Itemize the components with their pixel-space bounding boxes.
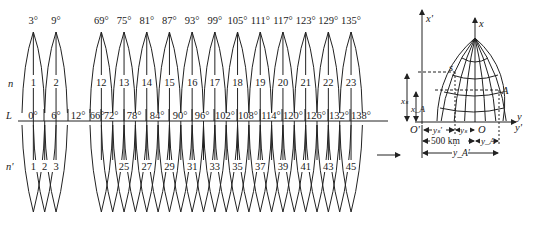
central-meridian-label: 69°: [94, 15, 109, 26]
central-meridian-label: 9°: [51, 15, 60, 26]
six-degree-zone: 1693°: [181, 15, 204, 121]
three-degree-zone-number: 1: [31, 161, 36, 172]
zone-number: 18: [232, 77, 243, 88]
longitude-label: 12°: [71, 110, 86, 121]
central-meridian-label: 87°: [162, 15, 177, 26]
zone-number: 21: [300, 77, 311, 88]
row-label-n: n: [8, 78, 13, 89]
zone-number: 22: [323, 77, 334, 88]
point-s-label: s: [449, 62, 453, 73]
longitude-label: 138°: [351, 110, 371, 121]
zone-number: 19: [255, 77, 266, 88]
longitude-label: 126°: [306, 110, 326, 121]
central-meridian-label: 81°: [139, 15, 154, 26]
central-meridian-label: 93°: [185, 15, 200, 26]
false-easting-label: 500 km: [431, 136, 460, 146]
zone-number: 13: [119, 77, 130, 88]
three-degree-zone-number: 39: [278, 161, 289, 172]
longitude-label: 66°: [90, 110, 105, 121]
y-s-prime-label: yₛ': [432, 125, 443, 135]
point-A-label: A: [501, 85, 509, 96]
three-degree-zone-number: 37: [255, 161, 266, 172]
row-label-n-prime: n': [6, 161, 14, 172]
x-s-label: xₛ: [400, 96, 409, 106]
y-A-label: y_A: [480, 136, 495, 146]
three-degree-zone-number: 35: [232, 161, 243, 172]
zone-number: 14: [142, 77, 153, 88]
three-degree-zones: 1232527293133353739414345: [22, 121, 362, 212]
longitude-label: 6°: [51, 110, 60, 121]
longitude-label: 114°: [261, 110, 281, 121]
longitude-label: 132°: [329, 110, 349, 121]
zone-number: 17: [210, 77, 221, 88]
central-meridian-label: 123°: [296, 15, 316, 26]
origin-label: O: [478, 124, 486, 135]
longitude-label: 0°: [28, 110, 37, 121]
longitude-label: 90°: [173, 110, 188, 121]
longitude-labels: 0°6°12°66°72°78°84°90°96°102°108°114°120…: [28, 109, 371, 121]
central-meridian-label: 3°: [29, 15, 38, 26]
axis-x-prime-label: x': [425, 13, 434, 24]
longitude-label: 78°: [127, 110, 142, 121]
central-meridian-label: 99°: [207, 15, 222, 26]
three-degree-zone-number: 33: [210, 161, 221, 172]
three-degree-zone-number: 27: [142, 161, 153, 172]
six-degree-zone: 29°: [45, 15, 68, 121]
six-degree-zone: 21123°: [294, 15, 317, 121]
three-degree-zone-number: 2: [42, 161, 47, 172]
longitude-label: 108°: [238, 110, 258, 121]
six-degree-zone: 1587°: [158, 15, 181, 121]
longitude-label: 120°: [283, 110, 303, 121]
six-degree-zone: 22129°: [317, 15, 340, 121]
axis-y-label: y: [516, 111, 522, 122]
projection-zone-diagram: n L n' 13°29°1269°1375°1481°1587°1693°17…: [0, 0, 539, 230]
three-degree-zone-number: 43: [323, 161, 334, 172]
zone-number: 1: [31, 77, 36, 88]
longitude-label: 96°: [195, 110, 210, 121]
three-degree-zone-number: 45: [346, 161, 357, 172]
origin-prime-label: O': [410, 124, 421, 135]
zone-number: 2: [53, 77, 58, 88]
axis-y-prime-label: y': [514, 122, 523, 133]
three-degree-zone-number: 31: [187, 161, 198, 172]
zone-number: 20: [278, 77, 289, 88]
three-degree-zone-number: 29: [164, 161, 175, 172]
row-label-L: L: [5, 110, 12, 121]
central-meridian-label: 135°: [341, 15, 361, 26]
central-meridian-label: 111°: [251, 15, 270, 26]
longitude-label: 72°: [104, 110, 119, 121]
six-degree-zone: 1799°: [204, 15, 227, 121]
longitude-label: 84°: [150, 110, 165, 121]
axis-x-label: x: [478, 18, 484, 29]
three-degree-zone-number: 41: [300, 161, 311, 172]
zone-number: 23: [346, 77, 357, 88]
central-meridian-label: 75°: [117, 15, 132, 26]
six-degree-zone: 1375°: [113, 15, 136, 121]
central-meridian-label: 129°: [318, 15, 338, 26]
six-degree-zone: 23135°: [340, 15, 363, 121]
six-degree-zone: 13°: [22, 15, 45, 121]
zone-graticule: [437, 38, 506, 121]
central-meridian-label: 105°: [228, 15, 248, 26]
six-degree-zones: 13°29°1269°1375°1481°1587°1693°1799°1810…: [22, 15, 362, 121]
longitude-label: 102°: [215, 110, 235, 121]
left-panel: n L n' 13°29°1269°1375°1481°1587°1693°17…: [5, 15, 388, 212]
six-degree-zone: 18105°: [226, 15, 249, 121]
zone-number: 12: [96, 77, 107, 88]
three-degree-zone-number: 3: [53, 161, 58, 172]
zone-number: 15: [164, 77, 175, 88]
zone-number: 16: [187, 77, 198, 88]
six-degree-zone: 19111°: [249, 15, 272, 121]
y-A-prime-label: y_A': [452, 148, 471, 158]
six-degree-zone: 1269°: [90, 15, 113, 121]
six-degree-zone: 1481°: [135, 15, 158, 121]
six-degree-zone: 20117°: [272, 15, 295, 121]
x-A-label: x_A: [410, 104, 425, 114]
three-degree-zone-number: 25: [119, 161, 130, 172]
y-s-label: yₛ: [459, 125, 468, 135]
right-panel-coordinate-diagram: x' x y y' xₛ x_A s A O' O yₛ' yₛ 50: [400, 10, 523, 158]
central-meridian-label: 117°: [273, 15, 293, 26]
